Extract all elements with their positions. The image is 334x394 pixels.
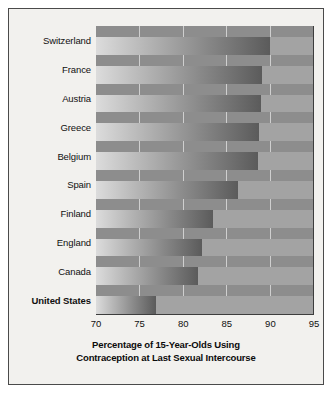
chart-body: SwitzerlandFranceAustriaGreeceBelgiumSpa…: [9, 9, 323, 315]
bar: [96, 296, 156, 314]
bar-row: [96, 170, 313, 199]
category-label: Finland: [9, 199, 96, 228]
category-label: Greece: [9, 113, 96, 142]
bar: [96, 123, 259, 141]
bar-row: [96, 55, 313, 84]
x-tick-label: 85: [222, 318, 233, 329]
bar: [96, 66, 262, 84]
category-label: Spain: [9, 171, 96, 200]
bar-row: [96, 228, 313, 257]
category-label: Canada: [9, 257, 96, 286]
axis-title-line-1: Percentage of 15-Year-Olds Using: [9, 339, 323, 352]
axis-title-line-2: Contraception at Last Sexual Intercourse: [9, 352, 323, 365]
bar: [96, 95, 261, 113]
bar-row: [96, 285, 313, 314]
x-tick-label: 95: [309, 318, 320, 329]
bar: [96, 210, 213, 228]
chart-figure: SwitzerlandFranceAustriaGreeceBelgiumSpa…: [8, 8, 324, 385]
bar: [96, 152, 258, 170]
bar-row: [96, 26, 313, 55]
category-label: France: [9, 55, 96, 84]
x-tick-label: 75: [134, 318, 145, 329]
axis-title: Percentage of 15-Year-Olds Using Contrac…: [9, 339, 323, 364]
bar: [96, 267, 198, 285]
category-label: Switzerland: [9, 26, 96, 55]
x-axis-ticks: 707580859095: [96, 316, 314, 332]
bar-row: [96, 199, 313, 228]
x-tick-label: 80: [178, 318, 189, 329]
bar-row: [96, 256, 313, 285]
bar: [96, 37, 270, 55]
plot-area: [96, 26, 314, 315]
category-label: United States: [9, 286, 96, 315]
category-label: England: [9, 228, 96, 257]
x-tick-label: 70: [91, 318, 102, 329]
category-axis-labels: SwitzerlandFranceAustriaGreeceBelgiumSpa…: [9, 26, 96, 315]
bar-row: [96, 84, 313, 113]
bar-row: [96, 112, 313, 141]
bar: [96, 181, 238, 199]
x-tick-label: 90: [265, 318, 276, 329]
category-label: Belgium: [9, 142, 96, 171]
bar: [96, 239, 202, 257]
bar-rows: [96, 26, 313, 314]
category-label: Austria: [9, 84, 96, 113]
bar-row: [96, 141, 313, 170]
